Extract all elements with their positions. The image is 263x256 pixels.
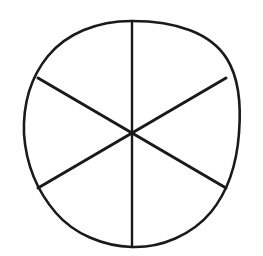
figure-canvas: Circle divided into six equal sectors A …: [0, 0, 263, 256]
six-sector-circle-figure: Circle divided into six equal sectors A …: [0, 0, 263, 256]
